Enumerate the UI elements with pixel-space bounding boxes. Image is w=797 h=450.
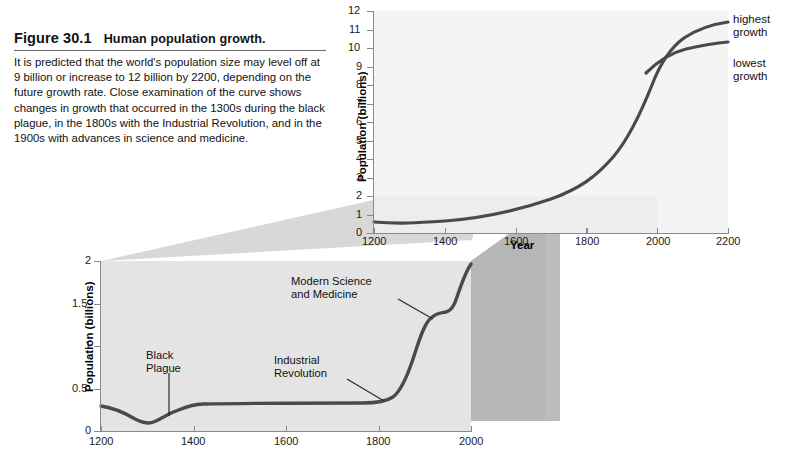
overview-ytick-9: 9	[356, 60, 362, 72]
legend-lowest-growth: lowest growth	[733, 57, 768, 83]
overview-xtick-1600: 1600	[504, 235, 528, 247]
detail-plot-area: Black Plague Industrial Revolution Moder…	[101, 261, 471, 431]
overview-curves	[374, 11, 728, 233]
overview-xtick-1800: 1800	[575, 235, 599, 247]
detail-xtick-1200: 1200	[89, 435, 113, 447]
detail-curve	[101, 261, 471, 431]
overview-xtick-2000: 2000	[646, 235, 670, 247]
legend-highest-growth: highest growth	[733, 13, 770, 39]
overview-ytick-1: 1	[356, 208, 362, 220]
overview-ytick-4: 4	[356, 152, 362, 164]
legend-highest-growth-line1: highest	[733, 13, 770, 26]
figure-root: Figure 30.1Human population growth. It i…	[0, 0, 797, 450]
overview-xtick-2200: 2200	[716, 235, 740, 247]
overview-ytick-2: 2	[356, 189, 362, 201]
detail-chart: Black Plague Industrial Revolution Moder…	[0, 250, 560, 450]
annotation-black-plague-line2: Plague	[146, 362, 181, 375]
annotation-modern-line2: and Medicine	[291, 288, 372, 301]
legend-lowest-growth-line2: growth	[733, 70, 768, 83]
overview-y-axis	[373, 11, 374, 234]
overview-ytick-7: 7	[356, 97, 362, 109]
annotation-black-plague: Black Plague	[146, 349, 181, 375]
legend-lowest-growth-line1: lowest	[733, 57, 768, 70]
overview-ytick-8: 8	[356, 78, 362, 90]
annotation-black-plague-line1: Black	[146, 349, 181, 362]
overview-xtick-1400: 1400	[433, 235, 457, 247]
overview-plot-area	[374, 11, 728, 233]
overview-ytick-5: 5	[356, 134, 362, 146]
overview-ytick-3: 3	[356, 171, 362, 183]
annotation-industrial-line2: Revolution	[274, 367, 327, 380]
detail-xtick-2000: 2000	[459, 435, 483, 447]
legend-highest-growth-line2: growth	[733, 26, 770, 39]
overview-x-axis	[373, 233, 729, 234]
overview-ytick-11: 11	[349, 23, 360, 35]
annotation-industrial-line1: Industrial	[274, 354, 327, 367]
detail-ytick-2: 2	[85, 254, 91, 266]
detail-ytick-0-5: 0.5	[72, 382, 87, 394]
annotation-modern-science: Modern Science and Medicine	[291, 275, 372, 301]
detail-xtick-1600: 1600	[274, 435, 298, 447]
detail-ytick-1-5: 1.5	[72, 297, 87, 309]
overview-ytick-10: 10	[348, 41, 360, 53]
overview-ytick-12: 12	[348, 4, 360, 16]
overview-chart: Population (billions) Year 12 11 10 9 8 …	[0, 0, 797, 250]
overview-ytick-6: 6	[356, 115, 362, 127]
detail-ytick-1: 1	[85, 339, 91, 351]
overview-xtick-1200: 1200	[362, 235, 386, 247]
detail-xtick-1400: 1400	[181, 435, 205, 447]
detail-xtick-1800: 1800	[366, 435, 390, 447]
detail-y-axis	[100, 261, 101, 432]
annotation-industrial-revolution: Industrial Revolution	[274, 354, 327, 380]
annotation-modern-line1: Modern Science	[291, 275, 372, 288]
